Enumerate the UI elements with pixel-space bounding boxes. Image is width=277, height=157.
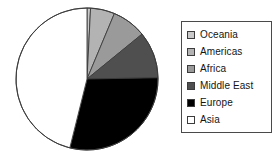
legend-item-list: OceaniaAmericasAfricaMiddle EastEuropeAs… — [182, 22, 271, 132]
pie-slice-group: Oceania: 0.8%Americas: 5.5%Africa: 7.8%M… — [16, 8, 158, 150]
legend-swatch-icon — [187, 82, 195, 90]
chart-legend: OceaniaAmericasAfricaMiddle EastEuropeAs… — [181, 21, 272, 133]
pie-svg: Oceania: 0.8%Americas: 5.5%Africa: 7.8%M… — [13, 4, 161, 154]
legend-item-label: Africa — [200, 60, 226, 77]
legend-item-label: Asia — [200, 111, 220, 128]
legend-swatch-icon — [187, 99, 195, 107]
legend-item-label: Europe — [200, 94, 233, 111]
legend-item-asia[interactable]: Asia — [187, 111, 271, 128]
legend-swatch-icon — [187, 48, 195, 56]
pie-plot-area: Oceania: 0.8%Americas: 5.5%Africa: 7.8%M… — [13, 4, 161, 154]
legend-swatch-icon — [187, 116, 195, 124]
legend-item-africa[interactable]: Africa — [187, 60, 271, 77]
legend-item-label: Middle East — [200, 77, 253, 94]
legend-item-label: Americas — [200, 43, 242, 60]
legend-item-middle-east[interactable]: Middle East — [187, 77, 271, 94]
legend-swatch-icon — [187, 65, 195, 73]
legend-item-oceania[interactable]: Oceania — [187, 26, 271, 43]
legend-item-europe[interactable]: Europe — [187, 94, 271, 111]
legend-item-label: Oceania — [200, 26, 238, 43]
pie-chart-figure: Oceania: 0.8%Americas: 5.5%Africa: 7.8%M… — [0, 0, 277, 157]
legend-item-americas[interactable]: Americas — [187, 43, 271, 60]
legend-swatch-icon — [187, 31, 195, 39]
